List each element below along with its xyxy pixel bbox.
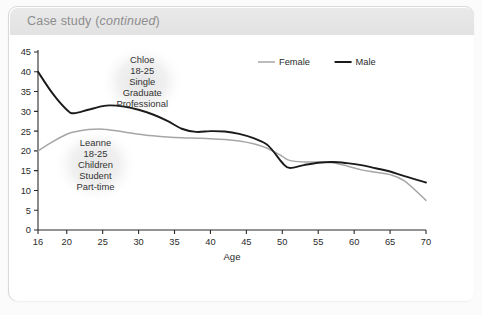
y-tick-label: 45 [21, 47, 31, 57]
annotation-line: Graduate [123, 87, 162, 98]
chart-legend: FemaleMale [258, 57, 376, 67]
y-tick-label: 5 [26, 206, 31, 216]
case-study-panel: Case study (continued) 05101520253035404… [8, 6, 474, 301]
annotation-line: Student [79, 170, 112, 181]
y-tick-label: 25 [21, 127, 31, 137]
annotation-line: Part-time [76, 181, 114, 192]
legend-label-male: Male [356, 57, 376, 67]
annotation-line: Leanne [80, 137, 111, 148]
annotation-line: 18-25 [83, 148, 107, 159]
y-tick-label: 30 [21, 107, 31, 117]
panel-title-prefix: Case study ( [27, 14, 100, 28]
x-tick-label: 40 [205, 237, 215, 247]
y-tick-label: 0 [26, 225, 31, 235]
panel-title-emphasis: continued [100, 14, 156, 28]
annotation-blob-layer [52, 44, 185, 203]
x-tick-label: 45 [241, 237, 251, 247]
panel-title: Case study (continued) [27, 14, 160, 28]
y-tick-label: 40 [21, 67, 31, 77]
x-tick-label: 50 [277, 237, 287, 247]
legend-label-female: Female [279, 57, 310, 67]
y-tick-label: 20 [21, 146, 31, 156]
x-axis-title: Age [223, 251, 240, 262]
annotation-line: Children [78, 159, 113, 170]
line-chart: 0510152025303540451620253035404550556065… [10, 36, 474, 301]
x-tick-label: 35 [169, 237, 179, 247]
annotation-line: 18-25 [130, 65, 154, 76]
x-tick-label: 65 [385, 237, 395, 247]
annotation-line: Professional [116, 98, 168, 109]
x-tick-label: 55 [313, 237, 323, 247]
annotation-leanne: Leanne18-25ChildrenStudentPart-time [76, 137, 114, 192]
y-tick-label: 10 [21, 186, 31, 196]
x-tick-label: 25 [97, 237, 107, 247]
annotation-line: Single [129, 76, 155, 87]
x-tick-label: 60 [349, 237, 359, 247]
x-tick-label: 20 [62, 237, 72, 247]
x-tick-label: 30 [133, 237, 143, 247]
annotation-line: Chloe [130, 54, 155, 65]
panel-header-bar: Case study (continued) [10, 8, 474, 36]
x-tick-label: 16 [33, 237, 43, 247]
x-tick-label: 70 [421, 237, 431, 247]
screenshot-root: Case study (continued) 05101520253035404… [0, 0, 482, 315]
panel-title-suffix: ) [156, 14, 160, 28]
y-tick-label: 35 [21, 87, 31, 97]
chart-container: 0510152025303540451620253035404550556065… [10, 36, 474, 301]
y-tick-label: 15 [21, 166, 31, 176]
